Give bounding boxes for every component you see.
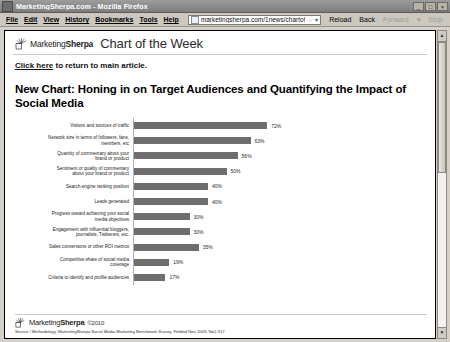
chart-row-label: Criteria to identify and profile audienc… <box>15 275 133 280</box>
chart-bar-value: 30% <box>194 214 204 220</box>
scrollbar-thumb[interactable] <box>438 42 446 173</box>
menu-item-bookmarks[interactable]: Bookmarks <box>92 16 136 23</box>
scrollbar-track[interactable] <box>438 42 446 327</box>
footer-logo-text: MarketingSherpa <box>29 318 84 327</box>
chart-row-bar-area: 40% <box>133 179 425 194</box>
chart-row-label: Quantity of commentary about your brand … <box>15 151 133 162</box>
footer-logo: MarketingSherpa ©2010 <box>15 317 427 328</box>
chart-heading: New Chart: Honing in on Target Audiences… <box>15 83 425 110</box>
chart-row: Sentiment or quality of commentary about… <box>15 164 425 179</box>
chart-bar-value: 63% <box>255 138 265 144</box>
chart-row-label: Search engine ranking position <box>15 184 133 189</box>
menu-item-edit[interactable]: Edit <box>21 16 40 23</box>
chevron-down-icon[interactable]: ▾ <box>315 16 318 23</box>
chart-bar-value: 50% <box>231 168 241 174</box>
logo-text-light: Marketing <box>30 39 66 49</box>
menu-item-history[interactable]: History <box>62 16 92 23</box>
chart-row-label: Leads generated <box>15 199 133 204</box>
chart-row: Search engine ranking position40% <box>15 179 425 194</box>
chart-row-bar-area: 30% <box>133 224 425 239</box>
menu-item-file[interactable]: File <box>3 16 21 23</box>
bookmark-star-icon[interactable]: ☆ <box>307 16 313 24</box>
chart-bar-value: 72% <box>271 123 281 129</box>
chart-bar <box>134 213 190 220</box>
close-button[interactable]: × <box>437 2 448 11</box>
menu-item-file-label: File <box>6 16 18 23</box>
sunburst-icon <box>15 37 28 50</box>
page-frame: MarketingSherpa Chart of the Week Click … <box>4 30 436 339</box>
return-link-suffix: to return to main article. <box>53 61 147 70</box>
chart-bar-value: 40% <box>212 183 222 189</box>
address-bar-input[interactable]: marketingsherpa.com/1news/chartofweek-02… <box>201 16 305 23</box>
maximize-button[interactable]: □ <box>425 2 436 11</box>
chart-row-bar-area: 30% <box>133 209 425 224</box>
vertical-scrollbar[interactable]: ▲ ▼ <box>437 30 447 339</box>
window-controls: _ □ × <box>413 2 448 11</box>
menu-item-view-label: View <box>43 16 59 23</box>
menu-toolbar: File Edit View History Bookmarks Tools H… <box>0 13 450 27</box>
reload-button[interactable]: Reload <box>325 16 355 23</box>
chart-bar <box>134 274 165 281</box>
chart-row-bar-area: 63% <box>133 133 425 148</box>
chart-row: Progress toward achieving your social me… <box>15 209 425 224</box>
chart-row: Criteria to identify and profile audienc… <box>15 270 425 285</box>
menu-item-tools[interactable]: Tools <box>136 16 160 23</box>
firefox-icon <box>2 1 13 12</box>
header-divider <box>13 54 427 55</box>
sunburst-icon-footer <box>15 317 26 328</box>
chart-row-bar-area: 50% <box>133 164 425 179</box>
scroll-down-arrow-icon[interactable]: ▼ <box>438 327 446 338</box>
chart-bar-value: 19% <box>173 259 183 265</box>
page-title: Chart of the Week <box>100 37 203 50</box>
menu-item-help[interactable]: Help <box>161 16 182 23</box>
menu-item-view[interactable]: View <box>40 16 62 23</box>
window-title: MarketingSherpa.com - Mozilla Firefox <box>16 3 413 10</box>
chart-bar <box>134 122 267 129</box>
chart-row-bar-area: 19% <box>133 255 425 270</box>
site-header: MarketingSherpa Chart of the Week <box>13 35 427 53</box>
chart-bar <box>134 183 208 190</box>
chart-row-label: Engagement with influential bloggers, jo… <box>15 227 133 238</box>
chart-row: Sales conversions or other ROI metrics35… <box>15 240 425 255</box>
chart-row: Visitors and sources of traffic72% <box>15 118 425 133</box>
chart-row-label: Sentiment or quality of commentary about… <box>15 166 133 177</box>
stop-button: Stop <box>425 16 447 23</box>
footer-logo-light: Marketing <box>29 318 60 327</box>
chart-bar-value: 30% <box>194 229 204 235</box>
copyright-text: ©2010 <box>87 320 104 326</box>
source-methodology: Source / Methodology: MarketingSherpa So… <box>15 329 427 334</box>
chart-row-bar-area: 17% <box>133 270 425 285</box>
page-footer: MarketingSherpa ©2010 Source / Methodolo… <box>15 314 427 334</box>
site-favicon-icon <box>191 16 199 24</box>
page-content: MarketingSherpa Chart of the Week Click … <box>5 31 435 338</box>
chart-bar-value: 35% <box>203 244 213 250</box>
bar-chart: Visitors and sources of traffic72%Networ… <box>15 118 425 285</box>
chart-bar <box>134 198 208 205</box>
chart-row-label: Progress toward achieving your social me… <box>15 211 133 222</box>
footer-divider <box>15 314 427 315</box>
scroll-up-arrow-icon[interactable]: ▲ <box>438 31 446 42</box>
chart-row-label: Competitive share of social media covera… <box>15 257 133 268</box>
logo-text: MarketingSherpa <box>30 39 93 49</box>
title-bar: MarketingSherpa.com - Mozilla Firefox _ … <box>0 0 450 13</box>
back-button[interactable]: Back <box>355 16 379 23</box>
browser-window: MarketingSherpa.com - Mozilla Firefox _ … <box>0 0 450 342</box>
menu-item-edit-label: Edit <box>24 16 37 23</box>
chart-bar-value: 56% <box>242 153 252 159</box>
logo-text-bold: Sherpa <box>66 39 94 49</box>
menu-item-tools-label: Tools <box>139 16 157 23</box>
minimize-button[interactable]: _ <box>413 2 424 11</box>
forward-button: Forward <box>379 16 413 23</box>
chart-row-label: Visitors and sources of traffic <box>15 123 133 128</box>
chart-row-bar-area: 35% <box>133 240 425 255</box>
chart-bar <box>134 137 251 144</box>
chart-row-label: Network size in terms of followers, fans… <box>15 135 133 146</box>
chart-bar <box>134 228 190 235</box>
return-to-article-link[interactable]: Click here <box>15 61 53 70</box>
chart-row: Competitive share of social media covera… <box>15 255 425 270</box>
menu-item-bookmarks-label: Bookmarks <box>95 16 133 23</box>
chart-row-bar-area: 56% <box>133 148 425 163</box>
address-bar[interactable]: marketingsherpa.com/1news/chartofweek-02… <box>188 15 321 25</box>
chart-bar-value: 40% <box>212 199 222 205</box>
chart-row-bar-area: 72% <box>133 118 425 133</box>
